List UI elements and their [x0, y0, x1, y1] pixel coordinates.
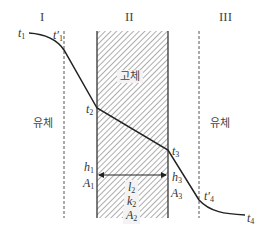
area-A1: A1	[83, 177, 94, 191]
fluid-label-right: 유체	[210, 118, 230, 129]
temp-label-t4-prime: t′4	[204, 190, 214, 204]
region-label-1: I	[40, 10, 44, 23]
region-label-3: III	[219, 10, 232, 23]
temp-label-t1: t1	[18, 27, 25, 41]
convection-coefficient-h1: h1	[84, 161, 94, 175]
area-A3: A3	[171, 187, 182, 201]
temp-label-t1-prime: t′1	[53, 29, 63, 43]
area-A2: A2	[123, 208, 140, 224]
region-label-2: II	[125, 10, 134, 23]
temp-label-t3: t3	[172, 145, 179, 159]
convection-coefficient-h3: h3	[172, 171, 182, 185]
temp-label-t4: t4	[247, 212, 254, 226]
fluid-label-left: 유체	[33, 118, 53, 129]
temp-label-t2: t2	[86, 103, 93, 117]
solid-label: 고체	[117, 70, 143, 83]
